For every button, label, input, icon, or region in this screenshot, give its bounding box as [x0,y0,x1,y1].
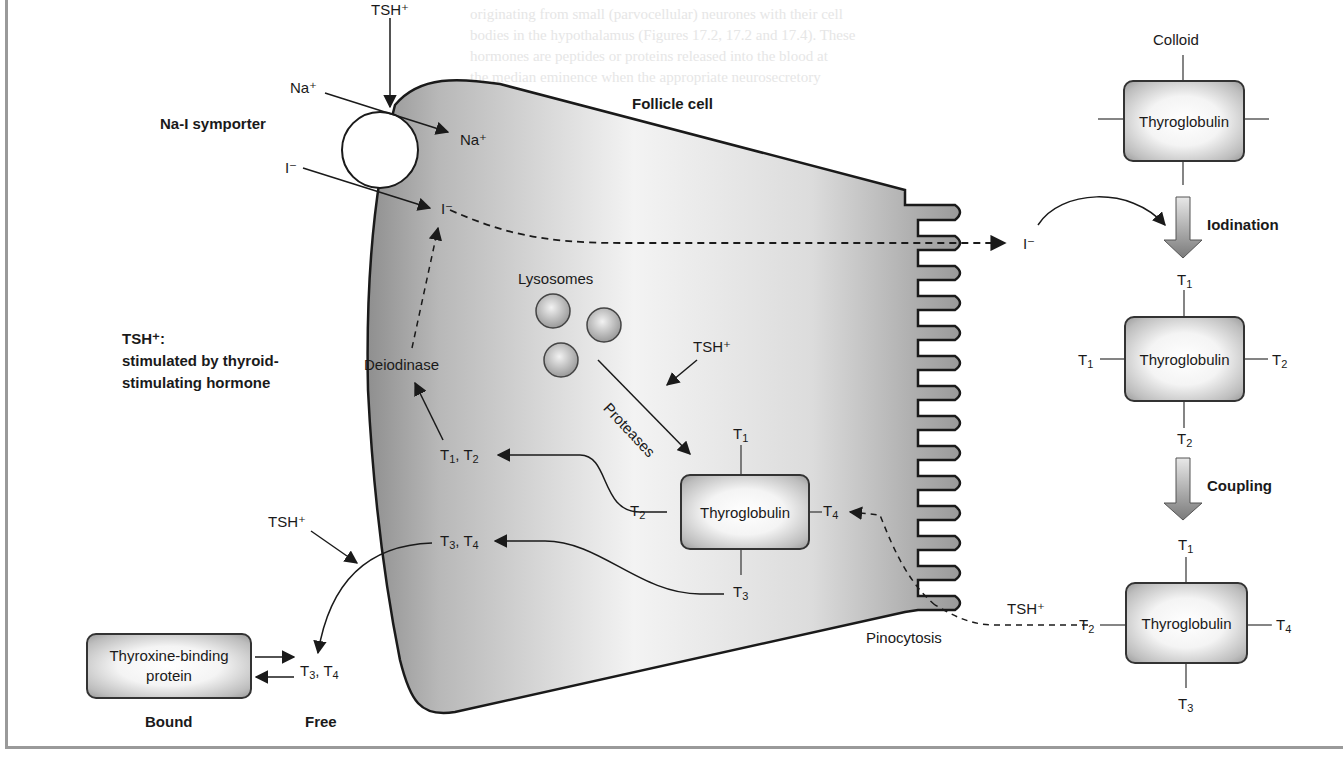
tsh-label-secretion: TSH⁺ [268,514,306,529]
legend-title: TSH⁺: [122,331,165,346]
thyroxine-binding-protein-box: Thyroxine-binding protein [86,633,252,699]
symporter-circle [342,112,418,188]
coupling-arrow [1164,458,1202,520]
tsh-label-pinocytosis: TSH⁺ [1007,601,1045,616]
tsh-label-symporter: TSH⁺ [371,2,409,17]
intra-tg-t1: T1 [733,426,748,444]
intra-tg-t2: T2 [630,503,645,521]
intra-tg-t3: T3 [733,584,748,602]
t1-t2-label: T1, T2 [440,447,479,465]
free-label: Free [305,714,337,729]
intra-tg-t4: T4 [823,503,838,521]
iodide-label-outside: I⁻ [285,160,297,175]
iodide-label-colloid: I⁻ [1023,236,1035,251]
na-label-inside: Na⁺ [460,132,487,147]
follicle-cell-shape [368,80,960,713]
na-label-outside: Na⁺ [290,80,317,95]
pinocytosis-label: Pinocytosis [866,630,942,645]
cpl-tg-t4: T4 [1276,617,1291,635]
deiodinase-label: Deiodinase [364,357,439,372]
colloid-label: Colloid [1153,32,1199,47]
cpl-tg-t2: T2 [1079,617,1094,635]
tsh-label-protease: TSH⁺ [693,339,731,354]
legend-line2: stimulating hormone [122,375,270,390]
follicle-cell-label: Follicle cell [632,96,713,111]
iod-tg-t1-left: T1 [1078,352,1093,370]
iodide-label-inside: I⁻ [441,201,453,216]
thyroglobulin-colloid: Thyroglobulin [1123,80,1245,162]
thyroglobulin-coupled: Thyroglobulin [1125,582,1248,664]
bound-label: Bound [145,714,192,729]
coupling-label: Coupling [1207,478,1272,493]
iod-tg-t2-bottom: T2 [1177,431,1192,449]
iodination-label: Iodination [1207,217,1279,232]
legend-line1: stimulated by thyroid- [122,353,279,368]
cpl-tg-t1: T1 [1178,537,1193,555]
lysosomes-label: Lysosomes [518,271,593,286]
cpl-tg-t3: T3 [1178,696,1193,714]
thyroglobulin-intracellular: Thyroglobulin [680,474,810,550]
iodination-arrow [1164,197,1202,258]
symporter-label: Na-I symporter [160,116,266,131]
thyroglobulin-iodinated: Thyroglobulin [1124,316,1245,402]
iod-tg-t2-right: T2 [1272,352,1287,370]
t3-t4-label: T3, T4 [440,533,479,551]
free-t3-t4-label: T3, T4 [300,663,339,681]
iod-tg-t1-top: T1 [1177,272,1192,290]
